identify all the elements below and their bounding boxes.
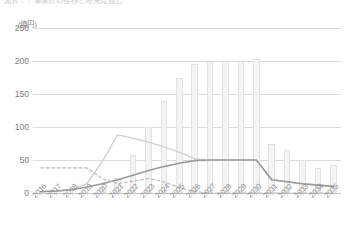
y-axis-tick-100: 100 <box>15 123 29 132</box>
x-axis-labels: 2016201720182019202020212022202320242025… <box>33 194 341 225</box>
y-axis-tick-50: 50 <box>20 156 29 165</box>
y-axis-tick-250: 250 <box>15 24 29 33</box>
y-axis-tick-0: 0 <box>24 189 29 198</box>
page-title: 図表 ○○ 事業費の推移と将来見通し <box>4 0 343 6</box>
plot-area: 050100150200250 <box>33 28 341 193</box>
line-series-group <box>33 28 341 193</box>
chart-container: 図表 ○○ 事業費の推移と将来見通し (億円) 050100150200250 … <box>0 0 347 225</box>
y-axis-tick-150: 150 <box>15 90 29 99</box>
chart-title-clipped: 図表 ○○ 事業費の推移と将来見通し <box>4 0 343 6</box>
y-axis-tick-200: 200 <box>15 57 29 66</box>
